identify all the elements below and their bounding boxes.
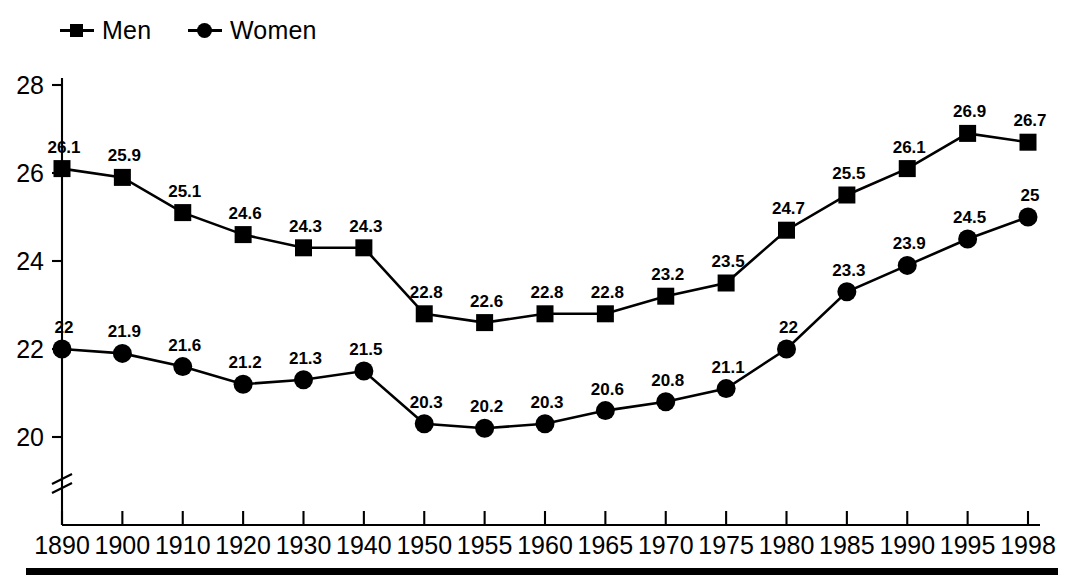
data-point-label: 21.9 xyxy=(108,322,141,341)
x-tick-label: 1990 xyxy=(879,531,935,559)
data-point-label: 26.1 xyxy=(47,138,80,157)
data-point-label: 25.5 xyxy=(832,164,865,183)
data-point-marker[interactable] xyxy=(234,375,253,394)
data-point-label: 23.3 xyxy=(832,261,865,280)
x-tick-label: 1920 xyxy=(215,531,271,559)
data-point-label: 22 xyxy=(55,318,74,337)
data-point-marker[interactable] xyxy=(958,230,977,249)
data-point-label: 21.5 xyxy=(349,340,382,359)
data-point-marker[interactable] xyxy=(416,305,433,322)
y-tick-label: 24 xyxy=(16,247,44,275)
data-point-marker[interactable] xyxy=(778,222,795,239)
data-point-marker[interactable] xyxy=(174,204,191,221)
data-point-marker[interactable] xyxy=(899,160,916,177)
x-tick-label: 1998 xyxy=(1000,531,1056,559)
plot-area: 2826242220 18901900191019201930194019501… xyxy=(0,0,1074,584)
data-point-label: 20.2 xyxy=(470,397,503,416)
data-point-marker[interactable] xyxy=(355,239,372,256)
data-point-label: 22 xyxy=(779,318,798,337)
bottom-rule xyxy=(26,568,1058,575)
data-point-label: 23.5 xyxy=(712,252,745,271)
data-point-label: 22.8 xyxy=(591,283,624,302)
x-tick-label: 1995 xyxy=(940,531,996,559)
data-point-marker[interactable] xyxy=(354,362,373,381)
x-tick-label: 1960 xyxy=(517,531,573,559)
data-point-label: 25 xyxy=(1021,186,1040,205)
data-point-marker[interactable] xyxy=(173,357,192,376)
data-point-marker[interactable] xyxy=(717,379,736,398)
data-point-marker[interactable] xyxy=(537,305,554,322)
data-point-marker[interactable] xyxy=(959,125,976,142)
x-tick-label: 1970 xyxy=(638,531,694,559)
data-point-label: 20.6 xyxy=(591,380,624,399)
y-tick-label: 26 xyxy=(16,159,44,187)
data-point-label: 23.2 xyxy=(651,265,684,284)
data-point-marker[interactable] xyxy=(114,169,131,186)
data-point-marker[interactable] xyxy=(657,288,674,305)
x-tick-label: 1955 xyxy=(457,531,513,559)
data-point-label: 24.5 xyxy=(953,208,986,227)
data-point-label: 20.3 xyxy=(530,393,563,412)
data-point-label: 21.2 xyxy=(229,353,262,372)
data-point-marker[interactable] xyxy=(475,419,494,438)
data-point-marker[interactable] xyxy=(898,256,917,275)
data-point-label: 21.6 xyxy=(168,336,201,355)
data-point-marker[interactable] xyxy=(295,239,312,256)
data-point-marker[interactable] xyxy=(415,414,434,433)
data-point-label: 24.7 xyxy=(772,199,805,218)
data-point-label: 25.9 xyxy=(108,146,141,165)
data-point-label: 24.3 xyxy=(289,217,322,236)
x-tick-label: 1890 xyxy=(34,531,90,559)
y-tick-label: 28 xyxy=(16,71,44,99)
y-tick-label: 22 xyxy=(16,335,44,363)
data-point-marker[interactable] xyxy=(596,401,615,420)
x-tick-label: 1985 xyxy=(819,531,875,559)
data-point-label: 22.8 xyxy=(530,283,563,302)
data-point-label: 20.8 xyxy=(651,371,684,390)
data-point-label: 23.9 xyxy=(893,234,926,253)
data-point-marker[interactable] xyxy=(235,226,252,243)
data-point-marker[interactable] xyxy=(597,305,614,322)
data-point-label: 20.3 xyxy=(410,393,443,412)
data-point-marker[interactable] xyxy=(53,340,72,359)
x-tick-label: 1910 xyxy=(155,531,211,559)
data-point-marker[interactable] xyxy=(113,344,132,363)
data-point-marker[interactable] xyxy=(294,370,313,389)
x-tick-label: 1965 xyxy=(578,531,634,559)
x-tick-label: 1980 xyxy=(759,531,815,559)
data-label-layer: 26.125.925.124.624.324.322.822.622.822.8… xyxy=(47,102,1046,416)
data-point-marker[interactable] xyxy=(656,392,675,411)
data-point-marker[interactable] xyxy=(1020,134,1037,151)
data-point-label: 24.6 xyxy=(229,204,262,223)
data-point-marker[interactable] xyxy=(54,160,71,177)
data-point-label: 22.8 xyxy=(410,283,443,302)
x-tick-label: 1900 xyxy=(95,531,151,559)
data-point-marker[interactable] xyxy=(1019,208,1038,227)
data-point-marker[interactable] xyxy=(476,314,493,331)
x-axis: 1890190019101920193019401950195519601965… xyxy=(34,511,1056,559)
data-point-label: 24.3 xyxy=(349,217,382,236)
data-point-label: 22.6 xyxy=(470,292,503,311)
y-tick-label: 20 xyxy=(16,423,44,451)
data-point-marker[interactable] xyxy=(837,282,856,301)
data-point-label: 26.7 xyxy=(1013,111,1046,130)
data-point-label: 26.1 xyxy=(893,138,926,157)
data-point-marker[interactable] xyxy=(838,187,855,204)
x-tick-label: 1975 xyxy=(698,531,754,559)
x-tick-label: 1950 xyxy=(396,531,452,559)
data-series-layer xyxy=(53,125,1038,438)
data-point-label: 21.3 xyxy=(289,349,322,368)
x-tick-label: 1930 xyxy=(276,531,332,559)
data-point-marker[interactable] xyxy=(777,340,796,359)
line-chart: Men Women 2826242220 1890190019101920193… xyxy=(0,0,1074,584)
data-point-label: 26.9 xyxy=(953,102,986,121)
x-tick-label: 1940 xyxy=(336,531,392,559)
data-point-label: 21.1 xyxy=(712,358,745,377)
data-point-label: 25.1 xyxy=(168,182,201,201)
data-point-marker[interactable] xyxy=(536,414,555,433)
data-point-marker[interactable] xyxy=(718,275,735,292)
